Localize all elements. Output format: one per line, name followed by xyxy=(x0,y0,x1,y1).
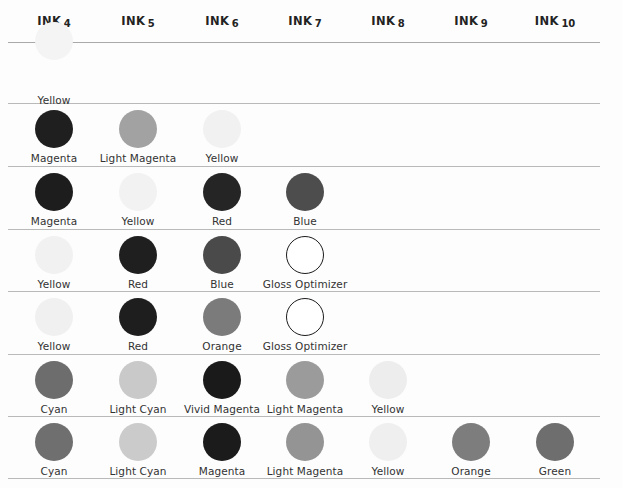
header-rule xyxy=(8,42,600,43)
ink-cell[interactable]: Yellow xyxy=(323,361,453,415)
ink-color-swatch[interactable] xyxy=(203,110,241,148)
column-header-number: 7 xyxy=(315,18,322,29)
ink-color-swatch[interactable] xyxy=(203,361,241,399)
swatch-wrap xyxy=(240,298,370,340)
ink-name-label: Gloss Optimizer xyxy=(240,278,370,290)
column-header-word: INK xyxy=(371,14,395,28)
column-header-number: 9 xyxy=(481,18,488,29)
swatch-wrap xyxy=(240,236,370,278)
swatch-wrap xyxy=(490,423,620,465)
ink-name-label: Yellow xyxy=(0,94,119,106)
column-header-number: 10 xyxy=(561,18,575,29)
ink-name-label: Yellow xyxy=(323,403,453,415)
table-header-row: INK4INK5INK6INK7INK8INK9INK10 xyxy=(0,14,622,42)
ink-color-swatch[interactable] xyxy=(119,423,157,461)
ink-cell[interactable]: Yellow xyxy=(0,52,119,106)
ink-cell[interactable]: Gloss Optimizer xyxy=(240,236,370,290)
ink-name-label: Gloss Optimizer xyxy=(240,340,370,352)
swatch-wrap xyxy=(0,52,119,94)
ink-color-swatch[interactable] xyxy=(536,423,574,461)
ink-color-swatch[interactable] xyxy=(35,110,73,148)
ink-color-swatch[interactable] xyxy=(286,173,324,211)
ink-name-label: Blue xyxy=(240,215,370,227)
ink-color-swatch[interactable] xyxy=(369,423,407,461)
ink-color-swatch[interactable] xyxy=(35,22,73,60)
column-header-word: INK xyxy=(121,14,145,28)
ink-color-swatch[interactable] xyxy=(35,423,73,461)
ink-color-swatch[interactable] xyxy=(203,298,241,336)
ink-color-swatch[interactable] xyxy=(119,236,157,274)
column-header-number: 5 xyxy=(148,18,155,29)
ink-color-swatch[interactable] xyxy=(35,298,73,336)
ink-color-swatch[interactable] xyxy=(286,298,324,336)
column-header-word: INK xyxy=(205,14,229,28)
ink-color-swatch[interactable] xyxy=(286,236,324,274)
swatch-wrap xyxy=(157,110,287,152)
ink-cell[interactable]: Gloss Optimizer xyxy=(240,298,370,352)
ink-name-label: Green xyxy=(490,465,620,477)
row-separator xyxy=(8,478,600,479)
ink-color-swatch[interactable] xyxy=(203,236,241,274)
swatch-wrap xyxy=(240,173,370,215)
ink-color-swatch[interactable] xyxy=(203,423,241,461)
row-separator xyxy=(8,229,600,230)
ink-table-page: INK4INK5INK6INK7INK8INK9INK10 YellowMage… xyxy=(0,0,622,488)
ink-color-swatch[interactable] xyxy=(119,298,157,336)
ink-color-swatch[interactable] xyxy=(203,173,241,211)
ink-color-swatch[interactable] xyxy=(35,236,73,274)
column-header-number: 8 xyxy=(398,18,405,29)
ink-color-swatch[interactable] xyxy=(119,173,157,211)
swatch-wrap xyxy=(323,361,453,403)
ink-color-swatch[interactable] xyxy=(35,173,73,211)
row-separator xyxy=(8,354,600,355)
column-header-word: INK xyxy=(288,14,312,28)
ink-color-swatch[interactable] xyxy=(119,110,157,148)
ink-cell[interactable]: Yellow xyxy=(157,110,287,164)
ink-cell[interactable]: Blue xyxy=(240,173,370,227)
row-separator xyxy=(8,416,600,417)
ink-color-swatch[interactable] xyxy=(35,361,73,399)
ink-cell[interactable]: Green xyxy=(490,423,620,477)
column-header-word: INK xyxy=(454,14,478,28)
column-header-word: INK xyxy=(535,14,559,28)
ink-color-swatch[interactable] xyxy=(369,361,407,399)
column-header-number: 6 xyxy=(232,18,239,29)
ink-name-label: Yellow xyxy=(157,152,287,164)
ink-color-swatch[interactable] xyxy=(286,361,324,399)
row-separator xyxy=(8,291,600,292)
ink-color-swatch[interactable] xyxy=(286,423,324,461)
ink-color-swatch[interactable] xyxy=(119,361,157,399)
column-header-ink-10: INK10 xyxy=(495,14,615,28)
row-separator xyxy=(8,166,600,167)
ink-color-swatch[interactable] xyxy=(452,423,490,461)
